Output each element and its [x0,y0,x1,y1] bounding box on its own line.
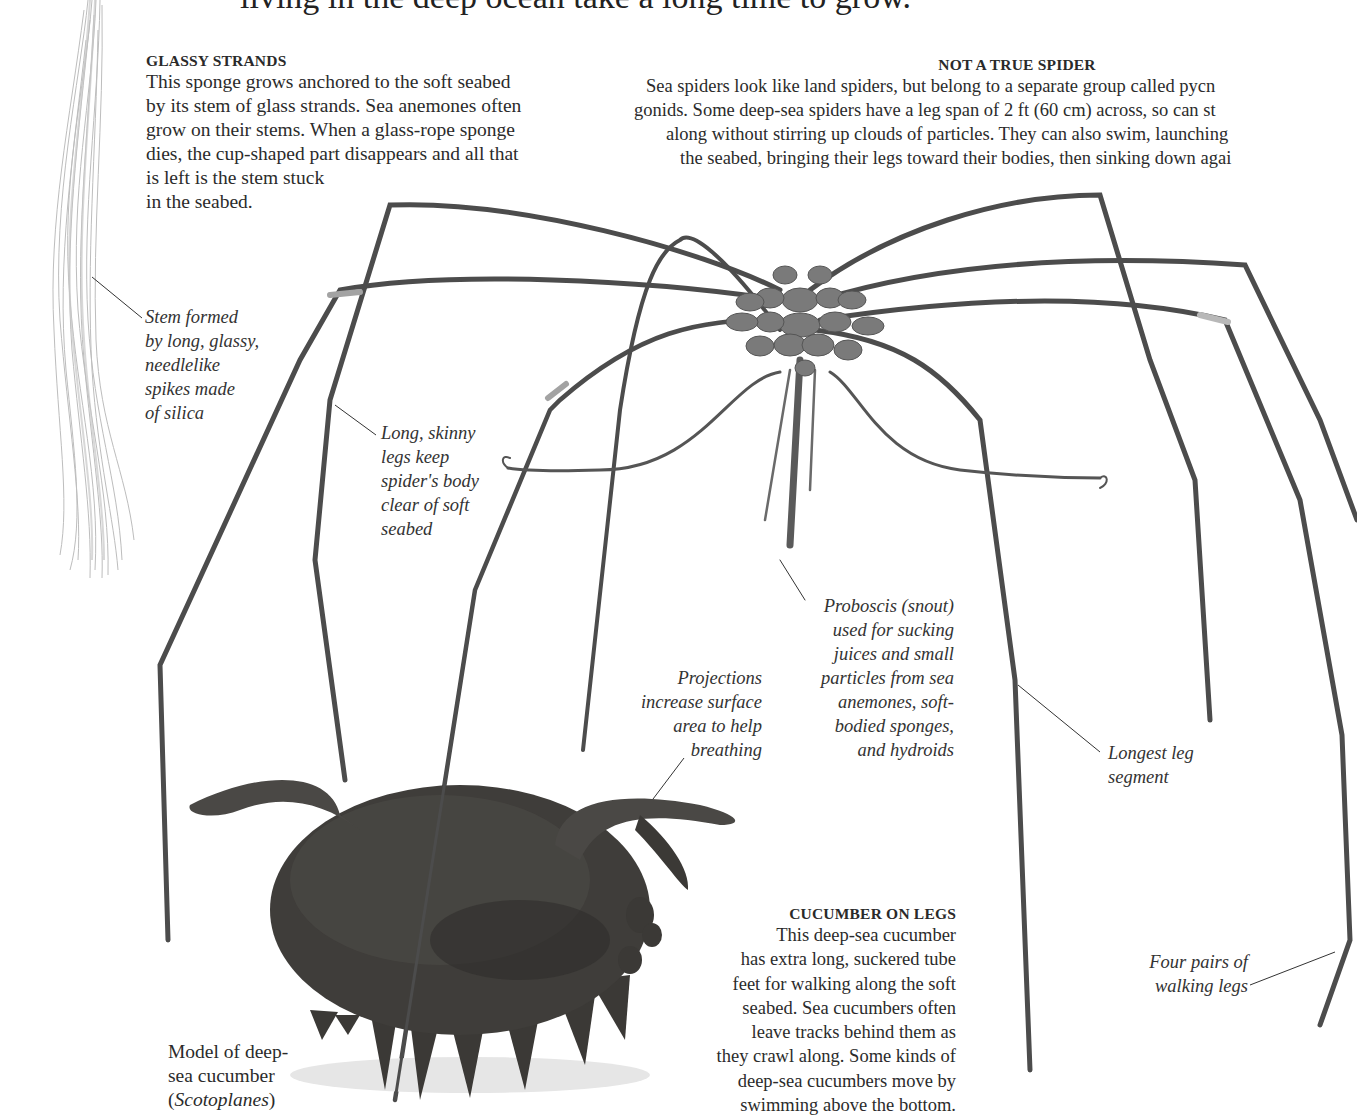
body-line: by its stem of glass strands. Sea anemon… [146,94,521,118]
not-a-true-spider-body: Sea spiders look like land spiders, but … [640,74,1357,170]
caption-line: used for sucking [790,618,954,642]
caption-line: increase surface [610,690,762,714]
caption-line: spikes made [145,377,259,401]
paren: ) [269,1089,276,1110]
caption-line: and hydroids [790,738,954,762]
stem-leader-line [92,277,142,318]
caption-line: legs keep [381,445,479,469]
cucumber-on-legs-body: This deep-sea cucumber has extra long, s… [650,923,956,1117]
cucumber-on-legs-section: CUCUMBER ON LEGS This deep-sea cucumber … [650,905,956,1117]
skinny-legs-leader-line [335,405,376,435]
glassy-strands-heading: GLASSY STRANDS [146,52,521,70]
caption-model: Model of deep- sea cucumber (Scotoplanes… [168,1040,288,1112]
sea-spider-body [726,266,884,376]
body-line: they crawl along. Some kinds of [650,1044,956,1068]
body-line: This deep-sea cucumber [650,923,956,947]
caption-line: clear of soft [381,493,479,517]
body-line: the seabed, bringing their legs toward t… [680,146,1357,170]
body-line: leave tracks behind them as [650,1020,956,1044]
caption-line: particles from sea [790,666,954,690]
body-line: seabed. Sea cucumbers often [650,996,956,1020]
projections-leader-line [650,758,684,803]
body-line: has extra long, suckered tube [650,947,956,971]
caption-line: bodied sponges, [790,714,954,738]
caption-projections: Projections increase surface area to hel… [610,666,762,762]
body-line: grow on their stems. When a glass-rope s… [146,118,521,142]
four-pairs-leader-line [1250,952,1335,985]
caption-line: seabed [381,517,479,541]
not-a-true-spider-section: NOT A TRUE SPIDER Sea spiders look like … [640,56,1357,170]
body-line: dies, the cup-shaped part disappears and… [146,142,521,166]
glassy-strands-section: GLASSY STRANDS This sponge grows anchore… [146,52,521,214]
caption-line: Longest leg [1108,741,1194,765]
caption-line: Projections [610,666,762,690]
caption-proboscis: Proboscis (snout) used for sucking juice… [790,594,954,762]
body-line: gonids. Some deep-sea spiders have a leg… [634,98,1357,122]
caption-skinny-legs: Long, skinny legs keep spider's body cle… [381,421,479,541]
body-line: in the seabed. [146,190,521,214]
longest-leg-leader-line [1018,685,1100,752]
caption-line: area to help [610,714,762,738]
caption-line: breathing [610,738,762,762]
caption-line: walking legs [1120,974,1248,998]
body-line: along without stirring up clouds of part… [666,122,1357,146]
caption-line: Proboscis (snout) [790,594,954,618]
page-headline-fragment: living in the deep ocean take a long tim… [240,0,911,16]
caption-stem: Stem formed by long, glassy, needlelike … [145,305,259,425]
caption-four-pairs: Four pairs of walking legs [1120,950,1248,998]
caption-line: of silica [145,401,259,425]
caption-line: needlelike [145,353,259,377]
caption-line: Four pairs of [1120,950,1248,974]
caption-line: by long, glassy, [145,329,259,353]
glassy-strands-body: This sponge grows anchored to the soft s… [146,70,521,214]
body-line: This sponge grows anchored to the soft s… [146,70,521,94]
body-line: swimming above the bottom. [650,1093,956,1117]
caption-line: juices and small [790,642,954,666]
caption-line: Long, skinny [381,421,479,445]
caption-line: sea cucumber [168,1064,288,1088]
cucumber-on-legs-heading: CUCUMBER ON LEGS [650,905,956,923]
caption-line: anemones, soft- [790,690,954,714]
body-line: feet for walking along the soft [650,972,956,996]
caption-line: Stem formed [145,305,259,329]
caption-longest-leg: Longest leg segment [1108,741,1194,789]
body-line: deep-sea cucumbers move by [650,1069,956,1093]
caption-line: segment [1108,765,1194,789]
caption-line: spider's body [381,469,479,493]
caption-line: Model of deep- [168,1040,288,1064]
sponge-stem-image [53,0,134,578]
caption-line: (Scotoplanes) [168,1088,288,1112]
body-line: Sea spiders look like land spiders, but … [646,74,1357,98]
species-name: Scotoplanes [175,1089,269,1110]
not-a-true-spider-heading: NOT A TRUE SPIDER [640,56,1357,74]
body-line: is left is the stem stuck [146,166,521,190]
